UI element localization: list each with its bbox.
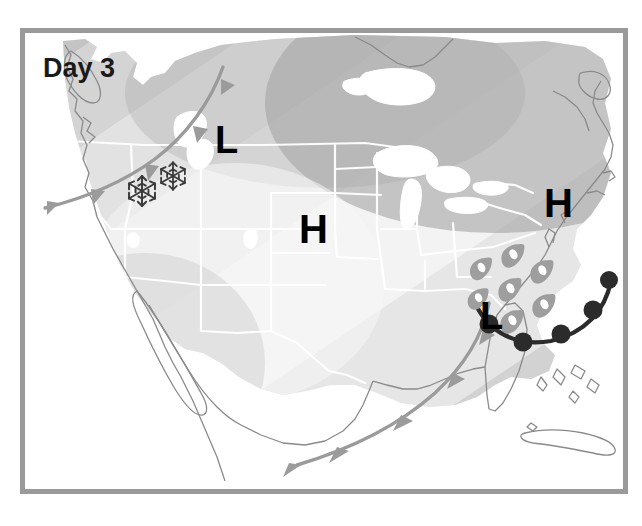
map-panel: Day 3 L H H L	[20, 28, 628, 494]
warm-front-bump-3	[552, 325, 571, 344]
warm-front-bump-2	[514, 333, 533, 352]
forecast-day-label: Day 3	[43, 55, 115, 82]
weather-map-screenshot: Day 3 L H H L	[0, 0, 642, 526]
lake-erie	[445, 197, 488, 213]
great-salt-lake	[244, 229, 258, 249]
high-pressure-icon-central: H	[299, 209, 327, 249]
low-pressure-icon-southeast: L	[480, 297, 502, 335]
high-pressure-icon-northeast: H	[544, 183, 572, 223]
weather-map-canvas	[25, 33, 623, 489]
low-pressure-icon-northwest: L	[215, 121, 237, 159]
lake-tahoe	[127, 233, 140, 248]
warm-front-bump-5	[600, 271, 618, 289]
warm-front-bump-4	[584, 301, 603, 320]
